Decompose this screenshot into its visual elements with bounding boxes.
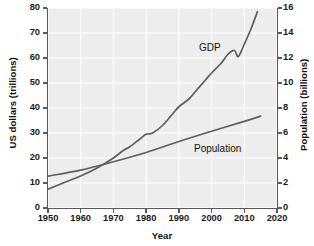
x-tick-label: 2020 bbox=[257, 214, 297, 223]
y-right-tick bbox=[278, 7, 282, 8]
y-right-tick bbox=[278, 57, 282, 58]
y-left-tick bbox=[43, 32, 47, 33]
series-label-gdp: GDP bbox=[199, 43, 221, 53]
y-right-tick bbox=[278, 107, 282, 108]
y-axis-left-title: US dollars (trillions) bbox=[8, 48, 18, 158]
y-left-tick bbox=[43, 182, 47, 183]
y-left-tick-label: 70 bbox=[12, 28, 40, 37]
y-left-tick-label: 0 bbox=[12, 203, 40, 212]
y-right-tick-label: 16 bbox=[283, 3, 311, 12]
y-axis-right-title: Population (billions) bbox=[299, 50, 309, 160]
series-lines bbox=[48, 12, 261, 190]
y-left-tick-label: 10 bbox=[12, 178, 40, 187]
y-right-tick-label: 2 bbox=[283, 178, 311, 187]
series-path-gdp bbox=[48, 12, 257, 190]
y-right-tick-label: 14 bbox=[283, 28, 311, 37]
y-right-tick bbox=[278, 157, 282, 158]
y-left-tick bbox=[43, 57, 47, 58]
x-axis-title: Year bbox=[117, 231, 207, 241]
plot-canvas bbox=[48, 8, 277, 208]
gridlines bbox=[48, 8, 277, 208]
y-right-tick bbox=[278, 207, 282, 208]
y-right-tick-label: 0 bbox=[283, 203, 311, 212]
y-left-tick-label: 80 bbox=[12, 3, 40, 12]
y-left-tick bbox=[43, 132, 47, 133]
y-left-tick bbox=[43, 82, 47, 83]
y-axis-left-line bbox=[47, 8, 48, 209]
y-left-tick bbox=[43, 7, 47, 8]
y-right-tick bbox=[278, 132, 282, 133]
y-right-tick bbox=[278, 82, 282, 83]
series-label-population: Population bbox=[194, 144, 241, 154]
plot-area bbox=[48, 8, 277, 208]
chart-figure: 0102030405060708002468101214161950196019… bbox=[0, 0, 314, 246]
y-right-tick bbox=[278, 32, 282, 33]
y-left-tick bbox=[43, 157, 47, 158]
y-left-tick bbox=[43, 107, 47, 108]
y-right-tick bbox=[278, 182, 282, 183]
